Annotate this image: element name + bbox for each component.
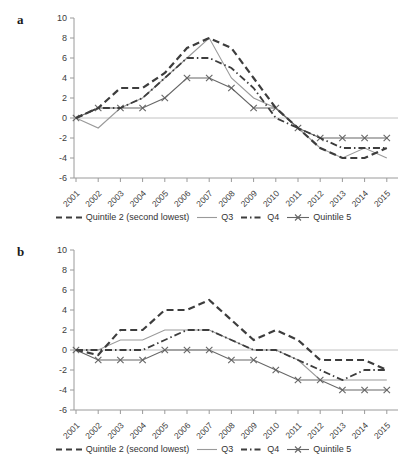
quintile2-line-sample-icon — [55, 213, 83, 222]
svg-text:4: 4 — [62, 73, 67, 83]
svg-text:2014: 2014 — [350, 420, 371, 441]
legend-label-q4: Q4 — [267, 444, 279, 454]
chart-a-canvas: 1086420-2-4-6200120022003200420052006200… — [0, 6, 406, 214]
svg-text:2: 2 — [62, 325, 67, 335]
svg-text:2001: 2001 — [61, 420, 82, 441]
svg-text:2013: 2013 — [327, 188, 348, 209]
svg-text:4: 4 — [62, 305, 67, 315]
svg-text:2015: 2015 — [372, 420, 393, 441]
svg-text:2008: 2008 — [216, 420, 237, 441]
svg-text:2012: 2012 — [305, 420, 326, 441]
svg-text:2001: 2001 — [61, 188, 82, 209]
svg-text:-6: -6 — [59, 173, 67, 183]
svg-text:2004: 2004 — [128, 420, 149, 441]
legend-item-quintile5: Quintile 5 — [286, 444, 351, 454]
svg-text:2003: 2003 — [105, 420, 126, 441]
svg-text:2008: 2008 — [216, 188, 237, 209]
legend-label-q4: Q4 — [267, 212, 279, 222]
quintile5-line-sample-icon — [286, 213, 310, 222]
svg-text:-6: -6 — [59, 405, 67, 415]
quintile5-line-sample-icon — [286, 445, 310, 454]
chart-b-legend: Quintile 2 (second lowest) Q3 Q4 Quintil… — [0, 444, 406, 454]
panel-a-label: a — [17, 12, 24, 28]
svg-text:2005: 2005 — [150, 420, 171, 441]
chart-b-canvas: 1086420-2-4-6200120022003200420052006200… — [0, 238, 406, 446]
svg-text:2006: 2006 — [172, 188, 193, 209]
svg-text:2012: 2012 — [305, 188, 326, 209]
legend-label-q3: Q3 — [221, 444, 233, 454]
svg-text:6: 6 — [62, 285, 67, 295]
svg-text:2010: 2010 — [261, 420, 282, 441]
svg-text:2007: 2007 — [194, 420, 215, 441]
svg-text:-2: -2 — [59, 133, 67, 143]
svg-text:10: 10 — [57, 245, 67, 255]
svg-text:2015: 2015 — [372, 188, 393, 209]
legend-label-quintile5: Quintile 5 — [313, 444, 351, 454]
svg-text:8: 8 — [62, 265, 67, 275]
q4-line-sample-icon — [240, 445, 264, 454]
legend-label-quintile2: Quintile 2 (second lowest) — [86, 444, 190, 454]
svg-text:2010: 2010 — [261, 188, 282, 209]
legend-item-q3: Q3 — [196, 444, 233, 454]
svg-text:2004: 2004 — [128, 188, 149, 209]
quintile2-line-sample-icon — [55, 445, 83, 454]
q3-line-sample-icon — [196, 445, 218, 454]
svg-text:2011: 2011 — [283, 188, 303, 208]
legend-label-quintile2: Quintile 2 (second lowest) — [86, 212, 190, 222]
q4-line-sample-icon — [240, 213, 264, 222]
svg-text:2011: 2011 — [283, 420, 303, 440]
panel-b-label: b — [17, 244, 24, 260]
figure: a 1086420-2-4-62001200220032004200520062… — [0, 0, 406, 469]
svg-text:10: 10 — [57, 13, 67, 23]
svg-text:-2: -2 — [59, 365, 67, 375]
svg-text:2007: 2007 — [194, 188, 215, 209]
svg-text:2014: 2014 — [350, 188, 371, 209]
svg-text:2002: 2002 — [83, 420, 104, 441]
q3-line-sample-icon — [196, 213, 218, 222]
legend-item-q3: Q3 — [196, 212, 233, 222]
legend-item-quintile2: Quintile 2 (second lowest) — [55, 444, 190, 454]
svg-text:6: 6 — [62, 53, 67, 63]
svg-text:2002: 2002 — [83, 188, 104, 209]
legend-label-quintile5: Quintile 5 — [313, 212, 351, 222]
legend-item-q4: Q4 — [240, 444, 279, 454]
legend-item-quintile5: Quintile 5 — [286, 212, 351, 222]
svg-text:2: 2 — [62, 93, 67, 103]
svg-text:2009: 2009 — [239, 420, 260, 441]
svg-text:8: 8 — [62, 33, 67, 43]
svg-text:0: 0 — [62, 345, 67, 355]
panel-a: a 1086420-2-4-62001200220032004200520062… — [0, 0, 406, 232]
svg-text:2003: 2003 — [105, 188, 126, 209]
chart-a-legend: Quintile 2 (second lowest) Q3 Q4 Quintil… — [0, 212, 406, 222]
legend-item-q4: Q4 — [240, 212, 279, 222]
legend-label-q3: Q3 — [221, 212, 233, 222]
svg-text:2009: 2009 — [239, 188, 260, 209]
svg-text:2013: 2013 — [327, 420, 348, 441]
svg-text:-4: -4 — [59, 385, 67, 395]
svg-text:2005: 2005 — [150, 188, 171, 209]
svg-text:0: 0 — [62, 113, 67, 123]
panel-b: b 1086420-2-4-62001200220032004200520062… — [0, 232, 406, 464]
legend-item-quintile2: Quintile 2 (second lowest) — [55, 212, 190, 222]
svg-text:2006: 2006 — [172, 420, 193, 441]
svg-text:-4: -4 — [59, 153, 67, 163]
